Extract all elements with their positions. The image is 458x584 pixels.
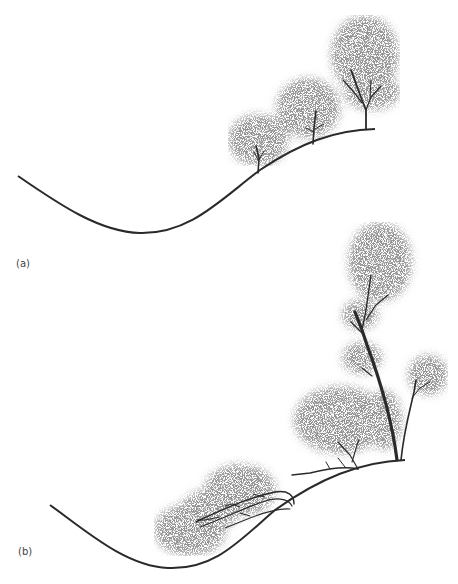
panel-a bbox=[18, 15, 400, 233]
canopy-group-b bbox=[154, 222, 448, 556]
panel-label-b: (b) bbox=[18, 546, 32, 557]
slope-tree-illustration bbox=[0, 0, 458, 584]
panel-b bbox=[50, 222, 448, 568]
panel-label-a: (a) bbox=[16, 258, 30, 269]
ground-slope-a bbox=[18, 129, 375, 233]
canopy-group-a bbox=[228, 15, 400, 166]
